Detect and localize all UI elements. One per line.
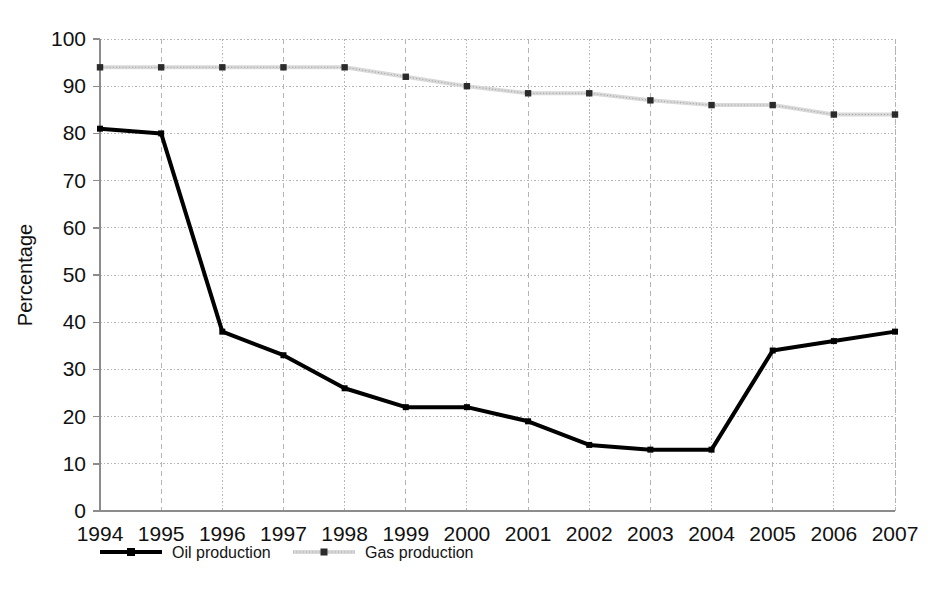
- x-tick-label: 1998: [321, 522, 368, 545]
- gas-production-marker: [158, 64, 164, 70]
- oil-production-marker: [709, 447, 715, 453]
- oil-production-marker: [647, 447, 653, 453]
- gas-production-marker: [403, 74, 409, 80]
- y-tick-label: 0: [74, 499, 86, 522]
- x-tick-label: 1996: [199, 522, 246, 545]
- legend-label-oil-production: Oil production: [172, 544, 271, 561]
- oil-production-marker: [770, 348, 776, 354]
- gas-production-marker: [647, 97, 653, 103]
- x-tick-label: 2002: [566, 522, 613, 545]
- oil-production-marker: [280, 352, 286, 358]
- oil-production-marker: [403, 404, 409, 410]
- x-tick-label: 1999: [382, 522, 429, 545]
- y-tick-label: 100: [51, 27, 86, 50]
- y-axis-title: Percentage: [14, 224, 36, 326]
- y-tick-label: 80: [63, 121, 86, 144]
- gas-production-marker: [464, 83, 470, 89]
- x-tick-label: 2000: [444, 522, 491, 545]
- gas-production-marker: [219, 64, 225, 70]
- x-tick-label: 1994: [77, 522, 124, 545]
- x-tick-label: 1995: [138, 522, 185, 545]
- oil-production-marker: [586, 442, 592, 448]
- gas-production-marker: [525, 90, 531, 96]
- y-tick-label: 10: [63, 452, 86, 475]
- gas-production-marker: [341, 64, 347, 70]
- gas-production-marker: [586, 90, 592, 96]
- oil-production-marker: [97, 126, 103, 132]
- x-tick-label: 2007: [872, 522, 919, 545]
- y-tick-label: 60: [63, 216, 86, 239]
- gas-production-marker: [769, 102, 775, 108]
- x-tick-label: 2003: [627, 522, 674, 545]
- oil-production-marker: [342, 385, 348, 391]
- oil-production-marker: [219, 329, 225, 335]
- gas-production-marker: [831, 111, 837, 117]
- y-tick-label: 90: [63, 74, 86, 97]
- x-tick-label: 2005: [749, 522, 796, 545]
- oil-production-marker: [831, 338, 837, 344]
- oil-production-marker: [525, 418, 531, 424]
- line-chart: 0102030405060708090100 19941995199619971…: [0, 0, 931, 603]
- oil-line-swatch-marker: [127, 548, 135, 556]
- y-tick-label: 20: [63, 405, 86, 428]
- chart-background: [0, 0, 931, 603]
- gas-line-swatch-marker: [321, 549, 328, 556]
- y-tick-label: 70: [63, 169, 86, 192]
- x-tick-label: 2004: [688, 522, 735, 545]
- oil-production-marker: [158, 130, 164, 136]
- gas-production-marker: [708, 102, 714, 108]
- y-tick-label: 40: [63, 310, 86, 333]
- x-tick-label: 2001: [505, 522, 552, 545]
- y-axis-label: Percentage: [14, 224, 36, 326]
- y-tick-label: 50: [63, 263, 86, 286]
- y-tick-label: 30: [63, 357, 86, 380]
- gas-production-marker: [97, 64, 103, 70]
- oil-production-marker: [892, 329, 898, 335]
- x-tick-label: 2006: [810, 522, 857, 545]
- gas-production-marker: [280, 64, 286, 70]
- gas-production-marker: [892, 111, 898, 117]
- x-tick-label: 1997: [260, 522, 307, 545]
- legend-label-gas-production: Gas production: [365, 544, 474, 561]
- oil-production-marker: [464, 404, 470, 410]
- chart-container: 0102030405060708090100 19941995199619971…: [0, 0, 931, 603]
